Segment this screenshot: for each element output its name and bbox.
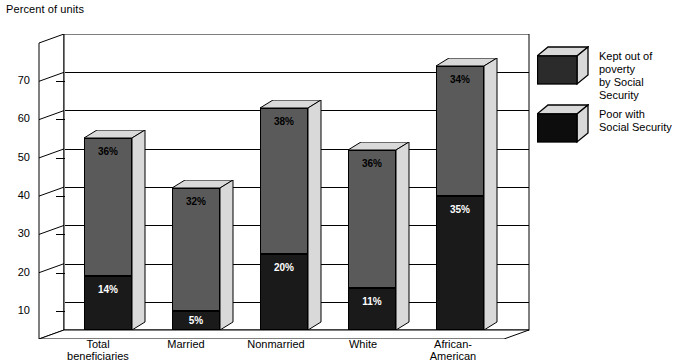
x-axis-label-nonmarried: Nonmarried <box>234 338 318 350</box>
legend-item-poor-with-social-security[interactable]: Poor with Social Security <box>537 104 674 148</box>
bar-segment-kept-out-of-poverty[interactable]: 38% <box>260 108 308 254</box>
bar-segment-poor-with-ss[interactable]: 11% <box>348 288 396 330</box>
bar-segment-kept-out-of-poverty[interactable]: 34% <box>436 66 484 196</box>
x-axis-label-total-beneficiaries: Total beneficiaries <box>58 338 138 362</box>
y-tick-label-30: 30 <box>8 228 30 239</box>
legend-label-poor-with-social-security: Poor with Social Security <box>599 108 672 134</box>
ytick-70 <box>56 81 65 82</box>
chart-root: Percent of units <box>0 0 674 363</box>
bar-label-top: 36% <box>85 147 131 157</box>
x-axis-label-african-american: African- American <box>410 338 496 362</box>
bar-group-nonmarried[interactable]: 38% 20% <box>260 108 308 330</box>
y-tick-label-40: 40 <box>8 190 30 201</box>
legend-label-kept-out-of-poverty: Kept out of poverty by Social Security <box>599 50 674 102</box>
plot-area: 36% 14% 32% 5% 3 <box>38 34 530 339</box>
bar-group-married[interactable]: 32% 5% <box>172 188 220 330</box>
bar-label-top: 38% <box>261 117 307 127</box>
bar-group-white[interactable]: 36% 11% <box>348 150 396 330</box>
y-tick-label-10: 10 <box>8 305 30 316</box>
chart-legend: Kept out of poverty by Social Security P… <box>537 46 674 162</box>
ytick-20 <box>56 273 65 274</box>
ytick-60 <box>56 119 65 120</box>
x-axis-label-white: White <box>324 338 402 350</box>
bar-segment-kept-out-of-poverty[interactable]: 32% <box>172 188 220 311</box>
bar-label-bottom: 35% <box>437 205 483 215</box>
x-axis-label-married: Married <box>146 338 226 350</box>
bar-label-bottom: 20% <box>261 263 307 273</box>
bar-group-african-american[interactable]: 34% 35% <box>436 66 484 330</box>
ytick-50 <box>56 158 65 159</box>
bar-group-total-beneficiaries[interactable]: 36% 14% <box>84 138 132 330</box>
bar-segment-poor-with-ss[interactable]: 14% <box>84 276 132 330</box>
bar-label-top: 32% <box>173 197 219 207</box>
y-tick-label-50: 50 <box>8 152 30 163</box>
bar-segment-kept-out-of-poverty[interactable]: 36% <box>348 150 396 288</box>
bar-segment-poor-with-ss[interactable]: 20% <box>260 254 308 330</box>
bar-segment-poor-with-ss[interactable]: 5% <box>172 311 220 330</box>
y-tick-label-70: 70 <box>8 75 30 86</box>
y-tick-label-20: 20 <box>8 267 30 278</box>
legend-item-kept-out-of-poverty[interactable]: Kept out of poverty by Social Security <box>537 46 674 90</box>
ytick-10 <box>56 311 65 312</box>
ytick-30 <box>56 234 65 235</box>
bar-label-bottom: 5% <box>173 316 219 326</box>
legend-cube-gray-icon <box>537 46 589 86</box>
y-tick-label-60: 60 <box>8 113 30 124</box>
bar-segment-kept-out-of-poverty[interactable]: 36% <box>84 138 132 276</box>
bar-label-bottom: 11% <box>349 297 395 307</box>
ytick-40 <box>56 196 65 197</box>
bar-label-top: 36% <box>349 159 395 169</box>
bar-label-top: 34% <box>437 75 483 85</box>
bar-label-bottom: 14% <box>85 285 131 295</box>
y-axis-title: Percent of units <box>6 3 84 15</box>
bar-segment-poor-with-ss[interactable]: 35% <box>436 196 484 330</box>
legend-cube-dark-icon <box>537 104 589 144</box>
